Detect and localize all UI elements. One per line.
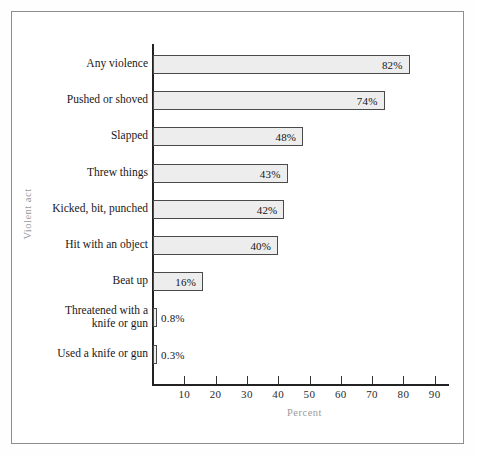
- category-label: Hit with an object: [65, 238, 148, 251]
- bar-value-label: 43%: [153, 168, 281, 180]
- bar-value-label: 16%: [153, 276, 196, 288]
- bar-value-label: 0.3%: [161, 349, 185, 361]
- category-label: Threw things: [87, 166, 148, 179]
- x-axis-tick-40: [278, 376, 279, 384]
- x-axis-tick-label-20: 20: [203, 388, 229, 400]
- bar-value-label: 0.8%: [161, 312, 185, 324]
- category-label: Slapped: [111, 129, 148, 142]
- x-axis-tick-10: [184, 376, 185, 384]
- category-label: Used a knife or gun: [57, 347, 148, 360]
- category-label: Pushed or shoved: [67, 93, 148, 106]
- category-label: Kicked, bit, punched: [52, 202, 148, 215]
- x-axis-tick-label-50: 50: [297, 388, 323, 400]
- x-axis-tick-60: [341, 376, 342, 384]
- bar: [153, 308, 157, 327]
- bar: [153, 345, 157, 364]
- bar-value-label: 82%: [153, 59, 403, 71]
- x-axis-tick-80: [403, 376, 404, 384]
- category-label: Threatened with a knife or gun: [65, 304, 148, 330]
- figure: 102030405060708090 82%74%48%43%42%40%16%…: [0, 0, 477, 455]
- x-axis-tick-label-10: 10: [171, 388, 197, 400]
- bar-value-label: 40%: [153, 240, 271, 252]
- x-axis-tick-90: [435, 376, 436, 384]
- x-axis-tick-50: [310, 376, 311, 384]
- x-axis-tick-label-70: 70: [359, 388, 385, 400]
- category-label: Any violence: [86, 57, 148, 70]
- x-axis-tick-70: [372, 376, 373, 384]
- bar-value-label: 48%: [153, 131, 296, 143]
- x-axis-line: [152, 384, 449, 386]
- x-axis-tick-label-80: 80: [390, 388, 416, 400]
- bar-chart-plot-area: 102030405060708090 82%74%48%43%42%40%16%…: [0, 0, 477, 455]
- category-label: Beat up: [113, 274, 148, 287]
- x-axis-title: Percent: [152, 407, 457, 418]
- y-axis-title: Violent act: [22, 188, 33, 239]
- x-axis-tick-30: [247, 376, 248, 384]
- x-axis-tick-label-90: 90: [422, 388, 448, 400]
- x-axis-tick-label-60: 60: [328, 388, 354, 400]
- bar-value-label: 74%: [153, 95, 378, 107]
- bar-value-label: 42%: [153, 204, 277, 216]
- x-axis-tick-label-40: 40: [265, 388, 291, 400]
- x-axis-tick-20: [216, 376, 217, 384]
- x-axis-tick-label-30: 30: [234, 388, 260, 400]
